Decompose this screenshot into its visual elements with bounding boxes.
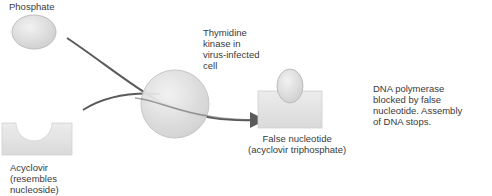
acyclovir-label: Acyclovir (resembles nucleoside) (10, 162, 59, 195)
kinase-enzyme-shape (141, 70, 209, 138)
false-nucleotide-oval (277, 69, 303, 103)
polymerase-label: DNA polymerase blocked by false nucleoti… (373, 83, 462, 127)
phosphate-shape (12, 15, 56, 49)
phosphate-label: Phosphate (9, 1, 54, 12)
acyclovir-shape (2, 123, 72, 155)
kinase-label: Thymidine kinase in virus-infected cell (203, 27, 260, 71)
false-nucleotide-label: False nucleotide (acyclovir triphosphate… (248, 133, 346, 155)
